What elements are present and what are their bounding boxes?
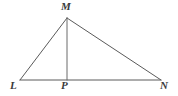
vertex-label-n: N	[160, 80, 168, 91]
segment-MN	[67, 18, 161, 80]
geometry-figure: M L P N	[0, 0, 178, 96]
vertex-label-l: L	[10, 80, 17, 91]
triangle-diagram	[0, 0, 178, 96]
vertex-label-p: P	[61, 80, 68, 91]
segment-LM	[20, 18, 67, 80]
vertex-label-m: M	[61, 1, 71, 12]
